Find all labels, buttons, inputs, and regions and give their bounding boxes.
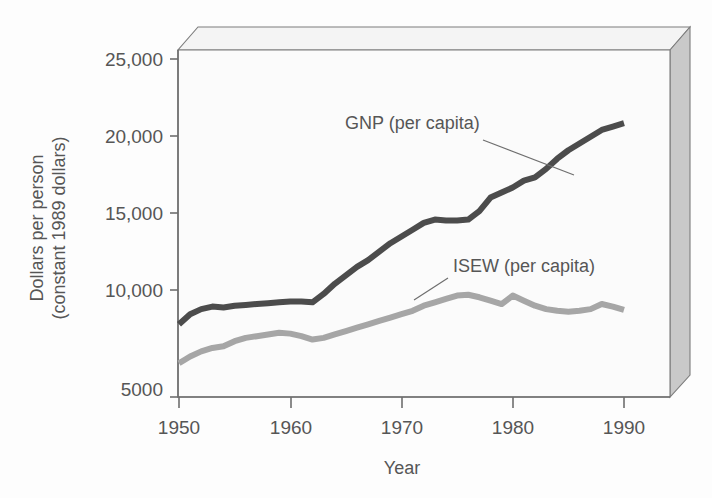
panel-top-face [178,27,690,50]
xtick-label-1960: 1960 [270,417,312,438]
ytick-label-10000: 10,000 [105,280,163,301]
chart-figure: 25,000 20,000 15,000 10,000 5000 1950 19… [0,0,712,498]
ytick-label-25000: 25,000 [105,49,163,70]
ytick-label-5000: 5000 [121,379,163,400]
y-tick-labels: 25,000 20,000 15,000 10,000 5000 [105,49,163,400]
xtick-label-1970: 1970 [381,417,423,438]
ytick-label-15000: 15,000 [105,203,163,224]
xtick-label-1990: 1990 [603,417,645,438]
series-label-isew: ISEW (per capita) [453,256,595,276]
panel-right-face [670,27,690,397]
series-label-gnp: GNP (per capita) [345,113,480,133]
y-axis-title: Dollars per person (constant 1989 dollar… [27,136,69,319]
plot-panel-3d [178,27,690,397]
xtick-label-1980: 1980 [492,417,534,438]
ytick-label-20000: 20,000 [105,126,163,147]
x-tick-labels: 1950 1960 1970 1980 1990 [158,417,645,438]
y-axis-title-line1: Dollars per person [27,154,47,301]
y-axis-title-line2: (constant 1989 dollars) [49,136,69,319]
chart-svg: 25,000 20,000 15,000 10,000 5000 1950 19… [0,0,712,498]
xtick-label-1950: 1950 [158,417,200,438]
x-axis-title: Year [384,458,420,478]
